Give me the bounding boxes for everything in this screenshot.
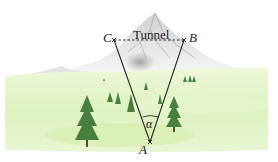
angle-alpha-label: α [146, 118, 152, 130]
point-label-c: C [103, 31, 112, 44]
meadow [5, 68, 270, 153]
scene-graphic [0, 0, 278, 162]
point-label-a: A [139, 143, 147, 156]
point-label-b: B [189, 31, 197, 44]
tunnel-diagram: C B A Tunnel α [0, 0, 278, 162]
tunnel-label: Tunnel [133, 28, 169, 41]
